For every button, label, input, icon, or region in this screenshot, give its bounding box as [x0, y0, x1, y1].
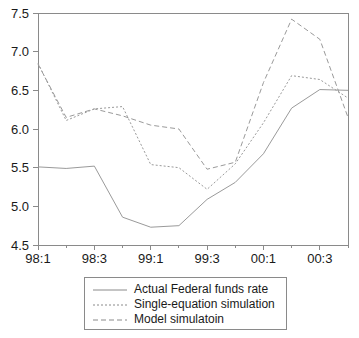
x-tick-label: 98:3 — [82, 251, 107, 266]
series-line-2 — [38, 19, 348, 169]
x-tick-label: 00:3 — [307, 251, 332, 266]
x-tick-label: 00:1 — [251, 251, 276, 266]
y-tick-label: 7.5 — [11, 6, 29, 21]
x-tick-label: 98:1 — [25, 251, 50, 266]
y-tick-label: 5.5 — [11, 160, 29, 175]
federal-funds-rate-line-chart: 4.55.05.56.06.57.07.5 98:198:399:199:300… — [0, 0, 359, 338]
x-tick-label: 99:3 — [194, 251, 219, 266]
series-line-1 — [38, 63, 348, 189]
legend-label-2: Model simulatoin — [134, 312, 224, 326]
series-line-0 — [38, 90, 348, 228]
chart-legend: Actual Federal funds rateSingle-equation… — [84, 277, 286, 329]
plot-frame — [38, 13, 348, 245]
y-axis: 4.55.05.56.06.57.07.5 — [11, 6, 38, 253]
y-tick-label: 7.0 — [11, 44, 29, 59]
y-tick-label: 6.5 — [11, 83, 29, 98]
y-tick-label: 6.0 — [11, 122, 29, 137]
legend-label-1: Single-equation simulation — [134, 297, 275, 311]
legend-label-0: Actual Federal funds rate — [134, 282, 268, 296]
x-tick-label: 99:1 — [138, 251, 163, 266]
series-lines — [38, 19, 348, 227]
chart-container: 4.55.05.56.06.57.07.5 98:198:399:199:300… — [0, 0, 359, 338]
y-tick-label: 5.0 — [11, 199, 29, 214]
x-axis: 98:198:399:199:300:100:3 — [25, 245, 348, 266]
